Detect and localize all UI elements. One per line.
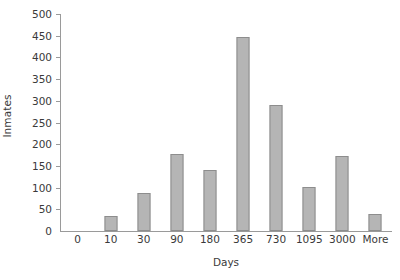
x-axis-tick-label: 90	[170, 234, 183, 245]
bar[interactable]	[137, 193, 150, 231]
y-axis-title: Inmates	[0, 0, 14, 232]
y-axis-title-text: Inmates	[1, 94, 13, 137]
y-axis-tick-label: 500	[32, 9, 52, 20]
bar-slot	[359, 14, 392, 231]
y-axis-tick-mark	[56, 144, 60, 145]
y-axis-tick-label: 0	[45, 226, 52, 237]
bar-slot	[227, 14, 260, 231]
bar-slot	[193, 14, 226, 231]
y-axis-tick-mark	[56, 166, 60, 167]
x-axis-tick-label: 180	[200, 234, 220, 245]
bar[interactable]	[369, 214, 382, 231]
x-axis-tick-label: 30	[137, 234, 150, 245]
y-axis-tick-mark	[56, 79, 60, 80]
x-axis-line	[60, 231, 392, 232]
bar-slot	[293, 14, 326, 231]
y-axis-tick-label: 50	[39, 204, 52, 215]
bar[interactable]	[170, 154, 183, 231]
y-axis-tick-mark	[56, 36, 60, 37]
bar-slot	[160, 14, 193, 231]
y-axis-tick-label: 100	[32, 182, 52, 193]
bar[interactable]	[104, 216, 117, 231]
bar[interactable]	[270, 105, 283, 231]
bar[interactable]	[336, 156, 349, 231]
bar-slot	[94, 14, 127, 231]
x-axis-tick-label: 10	[104, 234, 117, 245]
bar-slot	[260, 14, 293, 231]
y-axis-tick-mark	[56, 188, 60, 189]
y-axis-tick-mark	[56, 123, 60, 124]
plot-area	[60, 14, 392, 231]
bar[interactable]	[303, 187, 316, 231]
bars-layer	[61, 14, 392, 231]
y-axis-tick-mark	[56, 209, 60, 210]
bar-chart-figure: Inmates 050100150200250300350400450500 0…	[0, 0, 400, 280]
x-axis-tick-label: 1095	[296, 234, 323, 245]
y-axis-tick-mark	[56, 101, 60, 102]
x-axis-tick-label: 730	[266, 234, 286, 245]
bar-slot	[326, 14, 359, 231]
y-axis-tick-label: 150	[32, 161, 52, 172]
bar[interactable]	[237, 37, 250, 231]
y-axis-tick-label: 200	[32, 139, 52, 150]
y-axis-tick-mark	[56, 14, 60, 15]
x-axis-title: Days	[60, 256, 392, 268]
x-axis-tick-label: 365	[233, 234, 253, 245]
x-axis-tick-labels: 010309018036573010953000More	[61, 234, 392, 252]
y-axis-tick-label: 400	[32, 52, 52, 63]
x-axis-tick-label: 3000	[329, 234, 356, 245]
bar[interactable]	[203, 170, 216, 231]
x-axis-tick-label: More	[362, 234, 388, 245]
y-axis-tick-label: 250	[32, 117, 52, 128]
y-axis-tick-label: 450	[32, 30, 52, 41]
x-axis-tick-label: 0	[74, 234, 81, 245]
y-axis-tick-labels: 050100150200250300350400450500	[16, 0, 56, 240]
y-axis-tick-label: 350	[32, 74, 52, 85]
y-axis-tick-mark	[56, 57, 60, 58]
bar-slot	[61, 14, 94, 231]
y-axis-tick-label: 300	[32, 96, 52, 107]
bar-slot	[127, 14, 160, 231]
